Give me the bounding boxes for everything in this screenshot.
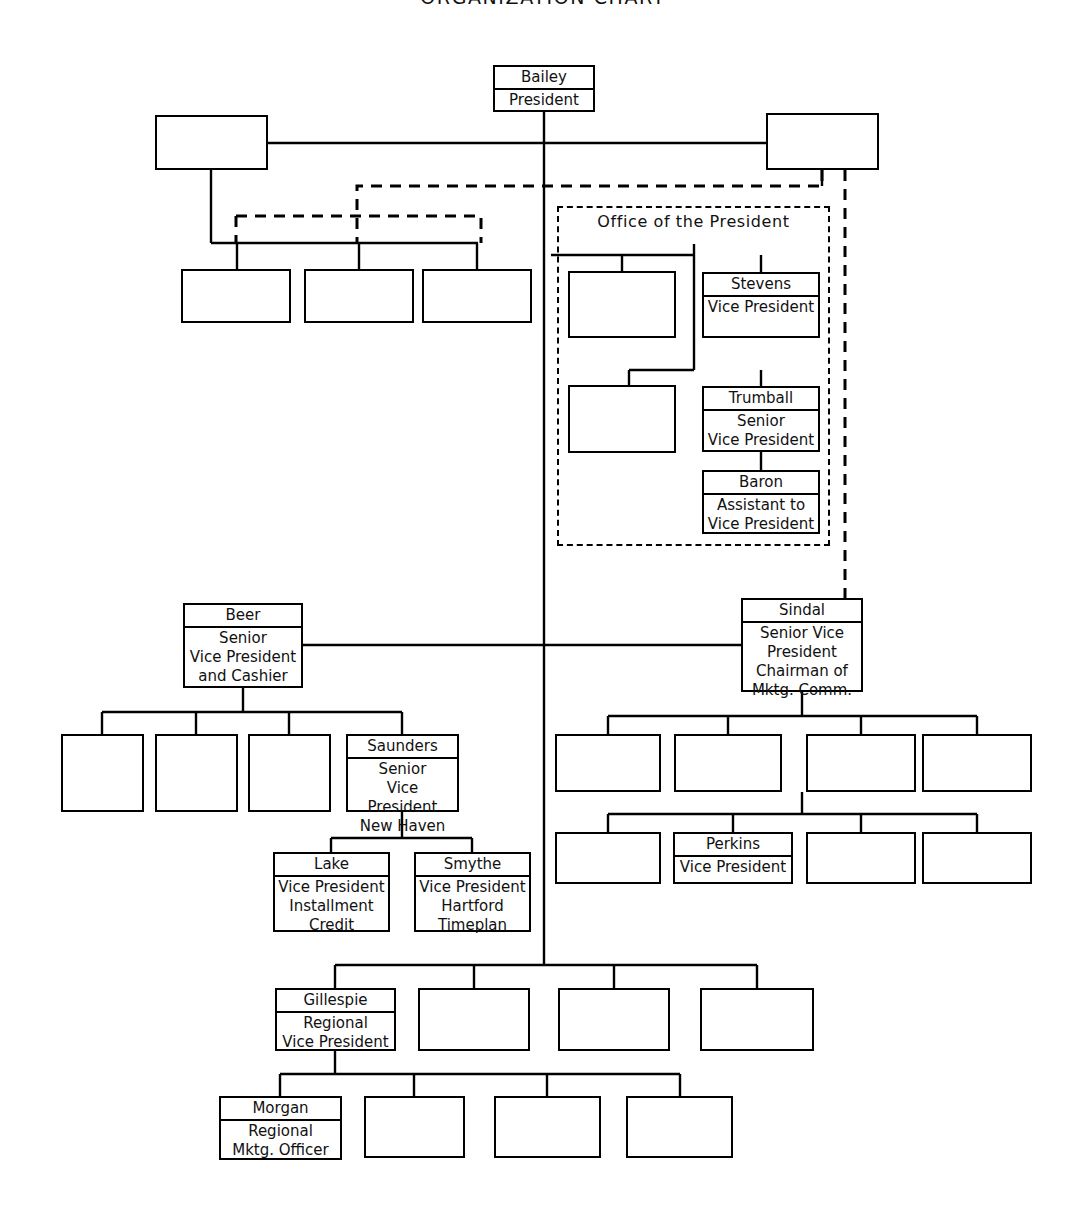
node-person-name: Trumball	[704, 388, 818, 411]
node-person-name: Lake	[275, 854, 388, 877]
org-node-sindal-r1-blank-3[interactable]	[806, 734, 916, 792]
org-node-stevens[interactable]: StevensVice President	[702, 272, 820, 338]
org-node-baron[interactable]: BaronAssistant to Vice President	[702, 470, 820, 534]
node-person-name: Morgan	[221, 1098, 340, 1121]
node-person-title: Vice President Installment Credit	[275, 877, 388, 937]
node-person-title: Senior Vice President Chairman of Mktg. …	[743, 623, 861, 702]
org-node-sindal-r2-blank-4[interactable]	[922, 832, 1032, 884]
node-person-name: Beer	[185, 605, 301, 628]
node-person-title: Vice President	[675, 857, 791, 879]
node-person-name: Saunders	[348, 736, 457, 759]
org-node-sindal-r1-blank-4[interactable]	[922, 734, 1032, 792]
org-node-oop-blank-2[interactable]	[568, 385, 676, 453]
org-node-gill-row-blank-2[interactable]	[558, 988, 670, 1051]
org-node-left-row-blank-2[interactable]	[304, 269, 414, 323]
org-node-beer-blank-2[interactable]	[155, 734, 238, 812]
group-label-office-of-the-president: Office of the President	[557, 212, 830, 231]
node-person-title: Senior Vice President New Haven	[348, 759, 457, 838]
org-node-gillespie[interactable]: GillespieRegional Vice President	[275, 988, 396, 1051]
org-node-sindal-r1-blank-2[interactable]	[674, 734, 782, 792]
org-node-beer-blank-1[interactable]	[61, 734, 144, 812]
org-node-gill-row-blank-1[interactable]	[418, 988, 530, 1051]
org-node-gill-row-blank-3[interactable]	[700, 988, 814, 1051]
org-node-bailey[interactable]: BaileyPresident	[493, 65, 595, 112]
org-node-sindal[interactable]: SindalSenior Vice President Chairman of …	[741, 598, 863, 692]
org-node-trumball[interactable]: TrumballSenior Vice President	[702, 386, 820, 452]
org-node-beer[interactable]: BeerSenior Vice President and Cashier	[183, 603, 303, 688]
node-person-name: Baron	[704, 472, 818, 495]
org-chart-canvas: ORGANIZATION CHART Office of the Preside…	[0, 0, 1086, 1214]
org-node-morgan-row-blank-1[interactable]	[364, 1096, 465, 1158]
org-node-top-left-blank[interactable]	[155, 115, 268, 170]
org-node-morgan-row-blank-3[interactable]	[626, 1096, 733, 1158]
node-person-name: Gillespie	[277, 990, 394, 1013]
node-person-name: Stevens	[704, 274, 818, 297]
node-person-title: Regional Mktg. Officer	[221, 1121, 340, 1162]
node-person-title: Senior Vice President and Cashier	[185, 628, 301, 688]
org-node-lake[interactable]: LakeVice President Installment Credit	[273, 852, 390, 932]
org-node-left-row-blank-3[interactable]	[422, 269, 532, 323]
connector-dashed	[236, 216, 481, 243]
org-node-smythe[interactable]: SmytheVice President Hartford Timeplan	[414, 852, 531, 932]
node-person-title: President	[495, 90, 593, 112]
org-node-perkins[interactable]: PerkinsVice President	[673, 832, 793, 884]
node-person-name: Bailey	[495, 67, 593, 90]
node-person-title: Vice President Hartford Timeplan	[416, 877, 529, 937]
node-person-title: Assistant to Vice President	[704, 495, 818, 536]
node-person-name: Perkins	[675, 834, 791, 857]
node-person-title: Vice President	[704, 297, 818, 319]
node-person-title: Senior Vice President	[704, 411, 818, 452]
org-node-beer-blank-3[interactable]	[248, 734, 331, 812]
org-node-sindal-r2-blank-1[interactable]	[555, 832, 661, 884]
org-node-sindal-r2-blank-3[interactable]	[806, 832, 916, 884]
org-node-sindal-r1-blank-1[interactable]	[555, 734, 661, 792]
org-node-morgan-row-blank-2[interactable]	[494, 1096, 601, 1158]
org-node-saunders[interactable]: SaundersSenior Vice President New Haven	[346, 734, 459, 812]
page-title: ORGANIZATION CHART	[0, 0, 1086, 8]
node-person-title: Regional Vice President	[277, 1013, 394, 1054]
node-person-name: Sindal	[743, 600, 861, 623]
org-node-oop-blank-1[interactable]	[568, 271, 676, 338]
org-node-left-row-blank-1[interactable]	[181, 269, 291, 323]
connector-lines	[0, 0, 1086, 1214]
org-node-morgan[interactable]: MorganRegional Mktg. Officer	[219, 1096, 342, 1160]
node-person-name: Smythe	[416, 854, 529, 877]
org-node-top-right-blank[interactable]	[766, 113, 879, 170]
